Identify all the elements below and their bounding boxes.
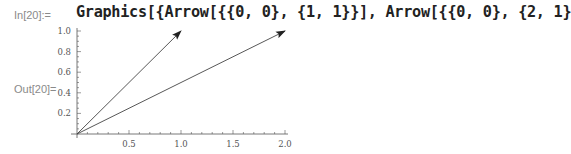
arrow-line <box>77 31 285 134</box>
y-tick-label: 0.6 <box>57 67 71 77</box>
y-tick-label: 0.8 <box>57 47 71 57</box>
axes: 0.51.01.52.0 0.20.40.60.81.0 <box>57 26 291 149</box>
graphics-output[interactable]: 0.51.01.52.0 0.20.40.60.81.0 <box>0 0 571 154</box>
x-tick-label: 2.0 <box>278 139 292 149</box>
arrows <box>77 31 285 134</box>
x-tick-label: 1.5 <box>226 139 240 149</box>
y-tick-label: 0.4 <box>57 88 71 98</box>
x-ticks: 0.51.01.52.0 <box>87 130 291 149</box>
y-tick-label: 0.2 <box>57 108 71 118</box>
x-tick-label: 0.5 <box>122 139 136 149</box>
arrow-line <box>77 31 181 134</box>
x-tick-label: 1.0 <box>174 139 188 149</box>
y-tick-label: 1.0 <box>57 26 71 36</box>
y-ticks: 0.20.40.60.81.0 <box>57 26 81 129</box>
